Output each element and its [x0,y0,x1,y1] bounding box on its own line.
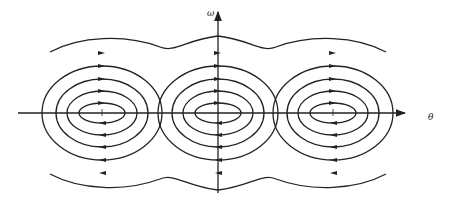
omega-axis-label: ω [207,8,214,18]
theta-axis-label: θ [428,112,433,122]
phase-portrait [0,0,452,204]
